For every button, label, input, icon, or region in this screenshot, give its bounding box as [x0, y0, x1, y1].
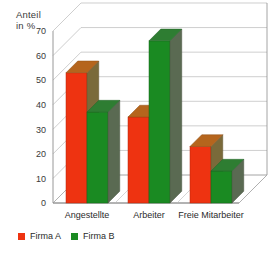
- svg-text:50: 50: [36, 75, 46, 85]
- y-tick-labels-group: 010203040506070: [36, 26, 46, 208]
- x-tick-label: Arbeiter: [133, 210, 165, 220]
- legend-item-firma-b: Firma B: [71, 231, 115, 241]
- x-tick-label: Angestellte: [65, 210, 110, 220]
- bar-front: [211, 171, 232, 203]
- chart-legend: Firma A Firma B: [18, 231, 115, 241]
- legend-item-firma-a: Firma A: [18, 231, 61, 241]
- bars-group: [66, 29, 244, 203]
- svg-text:30: 30: [36, 125, 46, 135]
- bar-front: [128, 117, 149, 203]
- bar-front: [190, 146, 211, 203]
- svg-text:70: 70: [36, 26, 46, 36]
- bar-front: [87, 112, 108, 203]
- svg-text:10: 10: [36, 174, 46, 184]
- bar-side: [108, 100, 120, 203]
- bar-front: [149, 41, 170, 203]
- svg-text:20: 20: [36, 149, 46, 159]
- bar-side: [170, 29, 182, 203]
- svg-text:0: 0: [41, 198, 46, 208]
- x-tick-label: Freie Mitarbeiter: [178, 210, 244, 220]
- svg-text:40: 40: [36, 100, 46, 110]
- svg-text:60: 60: [36, 51, 46, 61]
- bar-front: [66, 73, 87, 203]
- legend-label-firma-a: Firma A: [30, 231, 61, 241]
- bar-chart: Anteil in % 010203040506070 AngestellteA…: [0, 0, 270, 263]
- legend-swatch-firma-a: [18, 233, 25, 240]
- legend-label-firma-b: Firma B: [83, 231, 115, 241]
- x-tick-labels-group: AngestellteArbeiterFreie Mitarbeiter: [65, 210, 244, 220]
- legend-swatch-firma-b: [71, 233, 78, 240]
- chart-canvas: 010203040506070 AngestellteArbeiterFreie…: [0, 0, 270, 263]
